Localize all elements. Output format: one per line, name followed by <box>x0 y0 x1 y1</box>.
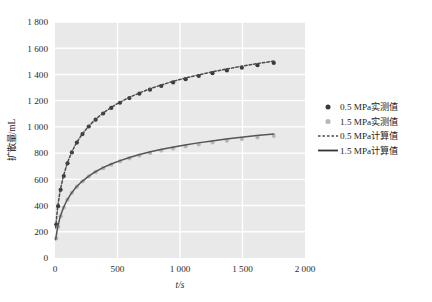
y-tick-label: 1 600 <box>27 44 48 54</box>
x-tick-label: 1 000 <box>170 264 191 274</box>
legend-label: 1.5 MPa实测值 <box>340 116 398 127</box>
y-tick-label: 200 <box>34 227 48 237</box>
x-tick-label: 2 000 <box>295 264 316 274</box>
x-axis-title: t/s <box>176 280 185 290</box>
legend-label: 0.5 MPa计算值 <box>340 130 398 141</box>
x-tick-label: 1 500 <box>232 264 253 274</box>
y-axis-title: 扩散量/mL <box>6 118 17 161</box>
legend-label: 0.5 MPa实测值 <box>340 101 398 112</box>
y-tick-label: 800 <box>34 148 48 158</box>
y-tick-label: 0 <box>43 253 48 263</box>
chart-figure: 02004006008001 0001 2001 4001 6001 800 0… <box>0 0 432 302</box>
y-tick-label: 600 <box>34 175 48 185</box>
legend-marker-dot-dark <box>326 105 331 110</box>
y-tick-label: 1 000 <box>27 122 48 132</box>
legend-marker-dot-light <box>326 119 331 124</box>
y-tick-label: 1 800 <box>27 17 48 27</box>
x-tick-label: 500 <box>111 264 125 274</box>
legend-label: 1.5 MPa计算值 <box>340 145 398 156</box>
x-tick-label: 0 <box>53 264 58 274</box>
y-tick-label: 1 400 <box>27 70 48 80</box>
diffusion-volume-line-chart: 02004006008001 0001 2001 4001 6001 800 0… <box>0 0 432 302</box>
y-tick-label: 1 200 <box>27 96 48 106</box>
y-tick-label: 400 <box>34 201 48 211</box>
